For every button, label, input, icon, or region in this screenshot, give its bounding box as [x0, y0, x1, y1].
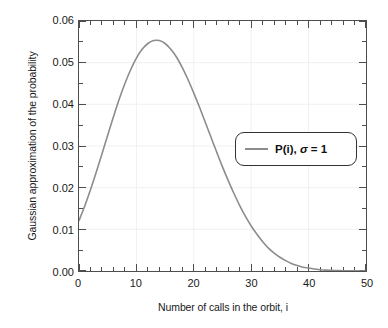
y-tick-label: 0.05 [34, 56, 74, 68]
y-tick-label: 0.04 [34, 98, 74, 110]
y-tick-label: 0.01 [34, 224, 74, 236]
x-tick-label: 30 [231, 277, 271, 290]
x-tick-label: 50 [347, 277, 387, 290]
legend-label-sigma: σ [300, 143, 308, 155]
y-tick-label: 0.03 [34, 140, 74, 152]
legend-label-value: = 1 [311, 143, 327, 155]
chart-figure: Gaussian approximation of the probabilit… [0, 0, 388, 328]
x-axis-tick-labels: 0 10 20 30 40 50 [78, 277, 367, 293]
y-tick-label: 0.06 [34, 14, 74, 26]
x-tick-label: 20 [174, 277, 214, 290]
legend-line-swatch [245, 148, 268, 150]
x-tick-label: 10 [116, 277, 156, 290]
y-axis-tick-labels: 0.00 0.01 0.02 0.03 0.04 0.05 0.06 [28, 20, 74, 272]
y-tick-label: 0.02 [34, 182, 74, 194]
x-axis-label: Number of calls in the orbit, i [78, 301, 368, 313]
legend-label-main: P(i), [275, 143, 297, 155]
x-tick-label: 40 [289, 277, 329, 290]
legend-entry-label: P(i), σ = 1 [275, 143, 327, 155]
chart-legend: P(i), σ = 1 [235, 132, 357, 166]
x-tick-label: 0 [58, 277, 98, 290]
